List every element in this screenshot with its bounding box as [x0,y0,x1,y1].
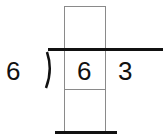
division-bracket-icon [44,50,54,90]
work-answer-box[interactable] [65,90,105,131]
division-bar [48,48,163,51]
dividend-digit-tens: 6 [77,58,91,84]
subtraction-line [55,131,117,134]
dividend-digit-ones: 3 [118,58,132,84]
quotient-answer-box[interactable] [65,7,105,48]
divisor: 6 [6,58,20,84]
